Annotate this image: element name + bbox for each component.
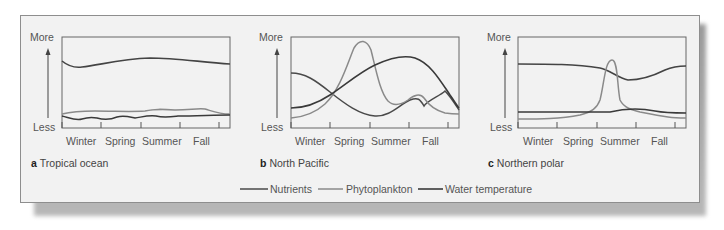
x-tick-label-spring: Spring (334, 135, 365, 147)
legend-label-water-temperature: Water temperature (445, 183, 532, 195)
y-axis-less-label: Less (490, 121, 512, 133)
y-axis-less-label: Less (261, 121, 283, 133)
y-axis-more-label: More (259, 31, 283, 43)
line-water-temperature (518, 64, 686, 80)
figure-svg: More Less Winter Spring Summer Fall aTro… (0, 0, 724, 230)
legend: Nutrients Phytoplankton Water temperatur… (240, 183, 532, 195)
chart-northern-polar: More Less Winter Spring Summer Fall cNor… (487, 31, 686, 169)
panel-caption: aTropical ocean (31, 157, 108, 169)
arrowhead-icon (46, 48, 51, 55)
x-tick-label-spring: Spring (105, 135, 136, 147)
x-tick-label-winter: Winter (295, 135, 326, 147)
x-ticks (62, 122, 219, 128)
legend-label-phytoplankton: Phytoplankton (346, 183, 413, 195)
arrowhead-icon (503, 48, 508, 55)
x-tick-label-spring: Spring (563, 135, 594, 147)
x-tick-label-summer: Summer (600, 135, 640, 147)
y-axis-more-label: More (30, 31, 54, 43)
panel-caption: bNorth Pacific (260, 157, 329, 169)
line-phytoplankton (62, 109, 230, 114)
x-tick-label-fall: Fall (193, 135, 210, 147)
x-ticks (291, 122, 448, 128)
x-ticks (518, 122, 675, 128)
line-phytoplankton (291, 41, 459, 118)
x-tick-label-winter: Winter (523, 135, 554, 147)
x-tick-label-summer: Summer (371, 135, 411, 147)
y-axis-less-label: Less (33, 121, 55, 133)
chart-north-pacific: More Less Winter Spring Summer Fall bNor… (259, 31, 459, 169)
x-tick-label-summer: Summer (142, 135, 182, 147)
panel-caption: cNorthern polar (488, 157, 564, 169)
x-tick-label-winter: Winter (66, 135, 97, 147)
legend-label-nutrients: Nutrients (270, 183, 312, 195)
plot-frame (62, 37, 230, 128)
line-water-temperature (62, 58, 230, 67)
x-tick-label-fall: Fall (422, 135, 439, 147)
line-nutrients (62, 115, 230, 120)
plot-frame (518, 37, 686, 128)
chart-tropical-ocean: More Less Winter Spring Summer Fall aTro… (30, 31, 230, 169)
y-axis-more-label: More (487, 31, 511, 43)
arrowhead-icon (275, 48, 280, 55)
line-nutrients (518, 109, 686, 113)
x-tick-label-fall: Fall (651, 135, 668, 147)
